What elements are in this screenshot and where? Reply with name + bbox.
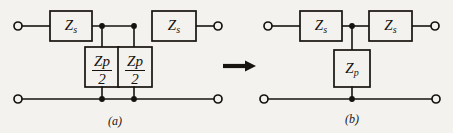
- label-b-series-left-symbol: Z: [315, 17, 323, 33]
- fraction-a-shunt-right-denominator: 2: [125, 72, 145, 87]
- junction-a-bottom-left: [99, 96, 105, 102]
- label-a-series-left-symbol: Z: [65, 17, 73, 33]
- fraction-a-shunt-left-numerator-subscript: p: [102, 53, 110, 69]
- terminal-a-top-right: [214, 22, 222, 30]
- fraction-a-shunt-left-denominator: 2: [92, 72, 112, 87]
- diagram-b-group: [260, 11, 440, 103]
- fraction-a-shunt-left-numerator: Zp: [92, 54, 112, 69]
- terminal-a-top-left: [14, 22, 22, 30]
- fraction-a-shunt-right: Zp 2: [125, 54, 145, 87]
- terminal-b-top-left: [264, 22, 272, 30]
- terminal-b-top-right: [431, 22, 439, 30]
- transform-arrow-icon: [223, 61, 256, 72]
- label-a-series-right-subscript: s: [176, 24, 180, 35]
- junction-a-top-right: [131, 23, 137, 29]
- label-a-shunt-left: Zp 2: [85, 54, 119, 87]
- label-b-series-left-subscript: s: [323, 24, 327, 35]
- junction-a-bottom-right: [131, 96, 137, 102]
- label-b-shunt-symbol: Z: [345, 60, 353, 76]
- fraction-a-shunt-left: Zp 2: [92, 54, 112, 87]
- label-a-series-right-symbol: Z: [168, 17, 176, 33]
- caption-a: (a): [108, 114, 122, 129]
- terminal-a-bottom-right: [214, 95, 222, 103]
- label-b-series-left: Zs: [300, 18, 342, 35]
- terminal-a-bottom-left: [14, 95, 22, 103]
- junction-a-top-left: [99, 23, 105, 29]
- terminal-b-bottom-right: [432, 95, 440, 103]
- fraction-a-shunt-right-numerator: Zp: [125, 54, 145, 69]
- label-a-series-left-subscript: s: [73, 24, 77, 35]
- caption-b: (b): [345, 112, 359, 127]
- terminal-b-bottom-left: [260, 95, 268, 103]
- junction-b-bottom: [349, 96, 355, 102]
- fraction-a-shunt-right-numerator-subscript: p: [135, 53, 143, 69]
- label-b-shunt-subscript: p: [354, 67, 359, 78]
- junction-b-top: [349, 23, 355, 29]
- label-a-series-left: Zs: [50, 18, 92, 35]
- label-b-series-right: Zs: [369, 18, 412, 35]
- label-b-shunt: Zp: [334, 61, 370, 78]
- label-a-shunt-right: Zp 2: [118, 54, 152, 87]
- figure-canvas: Zs Zs Zp 2 Zp 2 (a) Zs Zs Zp (b): [0, 0, 453, 133]
- label-a-series-right: Zs: [152, 18, 196, 35]
- label-b-series-right-symbol: Z: [384, 17, 392, 33]
- label-b-series-right-subscript: s: [393, 24, 397, 35]
